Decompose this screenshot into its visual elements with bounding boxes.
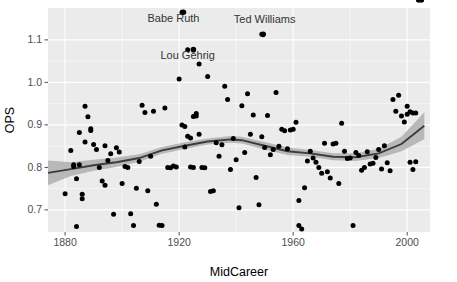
- data-point: [103, 143, 108, 148]
- data-point: [63, 191, 68, 196]
- data-point: [219, 142, 224, 147]
- data-point: [348, 156, 353, 161]
- data-point: [191, 165, 196, 170]
- data-point: [376, 147, 381, 152]
- point-annotation-label: Ted Williams: [234, 13, 296, 25]
- data-point: [351, 223, 356, 228]
- data-point: [94, 147, 99, 152]
- data-point: [114, 145, 119, 150]
- data-point: [103, 183, 108, 188]
- data-point: [217, 154, 222, 159]
- data-point: [111, 212, 116, 217]
- y-axis-ticks: 0.70.80.91.01.1: [27, 33, 48, 215]
- data-point: [197, 132, 202, 137]
- data-point: [365, 149, 370, 154]
- data-point: [88, 126, 93, 131]
- data-point: [225, 97, 230, 102]
- data-point: [259, 134, 264, 139]
- data-point: [234, 157, 239, 162]
- data-point: [336, 181, 341, 186]
- data-point: [322, 141, 327, 146]
- data-point: [388, 168, 393, 173]
- data-point: [117, 150, 122, 155]
- data-point: [211, 188, 216, 193]
- data-point: [160, 223, 165, 228]
- panel-background: [48, 8, 430, 232]
- data-point: [131, 223, 136, 228]
- data-point: [83, 104, 88, 109]
- data-point: [162, 105, 167, 110]
- data-point: [228, 167, 233, 172]
- data-point: [105, 158, 110, 163]
- data-point: [302, 185, 307, 190]
- x-axis-ticks: 1880192019602000: [53, 232, 419, 248]
- data-point: [291, 127, 296, 132]
- data-point: [305, 159, 310, 164]
- data-point: [393, 109, 398, 114]
- panel-background-group: [48, 8, 430, 232]
- data-point: [285, 146, 290, 151]
- data-point: [296, 198, 301, 203]
- y-tick-label: 0.8: [27, 161, 42, 173]
- data-point: [373, 155, 378, 160]
- data-point: [402, 119, 407, 124]
- x-axis-title: MidCareer: [210, 265, 268, 279]
- data-point: [299, 227, 304, 232]
- y-tick-label: 1.0: [27, 76, 42, 88]
- y-axis-title: OPS: [3, 107, 17, 133]
- data-point: [214, 140, 219, 145]
- data-point: [125, 165, 130, 170]
- data-point: [308, 149, 313, 154]
- data-point: [194, 113, 199, 118]
- data-point: [120, 181, 125, 186]
- data-point: [151, 109, 156, 114]
- data-point: [182, 144, 187, 149]
- data-point: [396, 93, 401, 98]
- y-tick-label: 0.7: [27, 203, 42, 215]
- data-point: [142, 110, 147, 115]
- data-point: [370, 161, 375, 166]
- data-point: [333, 141, 338, 146]
- point-annotation-label: Babe Ruth: [147, 12, 199, 24]
- data-point: [319, 171, 324, 176]
- data-point: [405, 104, 410, 109]
- data-point: [390, 97, 395, 102]
- data-point: [251, 113, 256, 118]
- data-point: [239, 103, 244, 108]
- data-point: [245, 91, 250, 96]
- data-point: [339, 121, 344, 126]
- data-point: [148, 154, 153, 159]
- data-point: [385, 160, 390, 165]
- data-point: [202, 165, 207, 170]
- x-tick-label: 1920: [167, 236, 191, 248]
- data-point: [342, 149, 347, 154]
- data-point: [77, 162, 82, 167]
- data-point: [399, 113, 404, 118]
- data-point: [83, 139, 88, 144]
- x-tick-label: 1960: [281, 236, 305, 248]
- data-point: [80, 192, 85, 197]
- data-point: [254, 175, 259, 180]
- data-point: [222, 84, 227, 89]
- data-point: [71, 162, 76, 167]
- data-point: [382, 143, 387, 148]
- y-tick-label: 0.9: [27, 118, 42, 130]
- data-point: [311, 156, 316, 161]
- data-point: [276, 144, 281, 149]
- data-point: [362, 165, 367, 170]
- data-point: [413, 110, 418, 115]
- data-point: [154, 202, 159, 207]
- data-point: [91, 142, 96, 147]
- data-point: [413, 159, 418, 164]
- data-point: [282, 128, 287, 133]
- data-point: [197, 62, 202, 67]
- data-point: [274, 90, 279, 95]
- data-point: [328, 176, 333, 181]
- data-point: [74, 224, 79, 229]
- data-point: [410, 167, 415, 172]
- point-annotation-label: Lou Gehrig: [160, 49, 214, 61]
- data-point: [182, 124, 187, 129]
- data-point: [356, 153, 361, 158]
- data-point: [140, 103, 145, 108]
- data-point: [248, 132, 253, 137]
